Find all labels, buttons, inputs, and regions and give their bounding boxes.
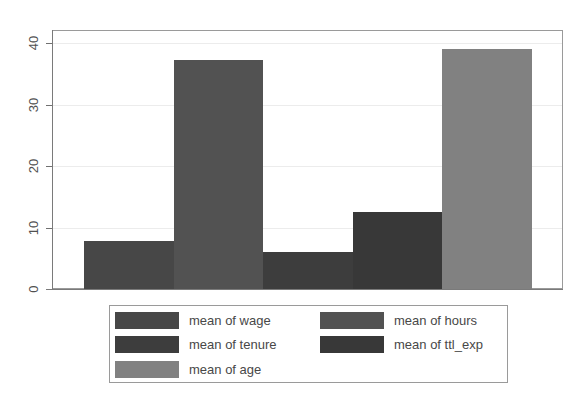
bar-ttl-exp	[353, 212, 443, 289]
legend-item-wage: mean of wage	[115, 311, 271, 329]
bar-tenure	[263, 252, 353, 289]
bar-wage	[84, 241, 174, 289]
legend-item-ttl-exp: mean of ttl_exp	[320, 335, 483, 353]
y-tick-label: 30	[24, 95, 44, 115]
legend-item-age: mean of age	[115, 360, 261, 378]
bar-age	[442, 49, 532, 289]
y-tick-label: 20	[24, 156, 44, 176]
bar-hours	[174, 60, 264, 289]
x-axis-line	[46, 289, 563, 290]
legend-label: mean of ttl_exp	[394, 337, 483, 352]
y-tick-label: 10	[24, 218, 44, 238]
legend-swatch	[115, 312, 179, 329]
legend-swatch	[320, 336, 384, 353]
legend-item-tenure: mean of tenure	[115, 335, 276, 353]
y-tick-label: 0	[24, 279, 44, 299]
legend-label: mean of hours	[394, 313, 477, 328]
legend-swatch	[115, 361, 179, 378]
legend-label: mean of age	[189, 362, 261, 377]
y-axis-line	[52, 30, 53, 290]
legend-label: mean of tenure	[189, 337, 276, 352]
legend-item-hours: mean of hours	[320, 311, 477, 329]
legend-label: mean of wage	[189, 313, 271, 328]
y-tick-label: 40	[24, 33, 44, 53]
gridline	[53, 43, 562, 44]
legend-swatch	[115, 336, 179, 353]
legend: mean of wage mean of hours mean of tenur…	[109, 305, 508, 383]
legend-swatch	[320, 312, 384, 329]
